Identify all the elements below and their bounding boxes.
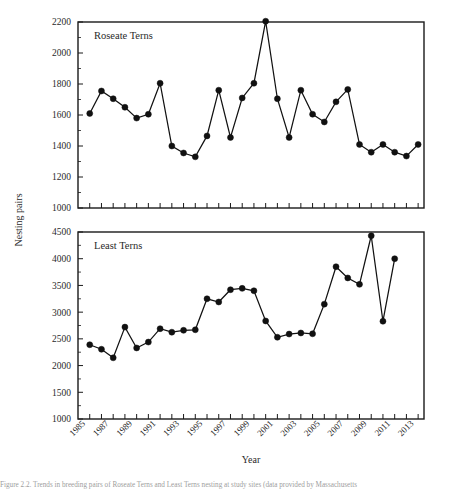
data-point-top-1988	[122, 104, 128, 110]
x-tick-label-2009: 2009	[349, 418, 369, 438]
caption-text: Figure 2.2. Trends in breeding pairs of …	[0, 481, 455, 490]
data-point-top-2005	[321, 119, 327, 125]
data-point-bottom-2000	[263, 318, 269, 324]
y-tick-label-top-1800: 1800	[52, 79, 71, 89]
y-tick-label-top-1200: 1200	[52, 172, 71, 182]
x-tick-label-1993: 1993	[161, 418, 181, 438]
data-point-top-1991	[157, 80, 163, 86]
data-point-top-2001	[274, 96, 280, 102]
x-tick-label-1997: 1997	[208, 418, 228, 438]
data-point-top-1989	[134, 115, 140, 121]
y-tick-label-top-2200: 2200	[52, 17, 71, 27]
data-point-bottom-1993	[181, 327, 187, 333]
y-tick-label-bottom-2000: 2000	[52, 361, 71, 371]
data-point-top-2000	[263, 18, 269, 24]
data-point-top-2011	[392, 149, 398, 155]
data-point-top-2008	[356, 141, 362, 147]
data-point-bottom-2011	[392, 256, 398, 262]
x-axis-labels: 1985198719891991199319951997199920012003…	[67, 418, 416, 438]
x-tick-label-2007: 2007	[325, 418, 345, 438]
data-point-top-1993	[181, 150, 187, 156]
y-tick-label-bottom-1000: 1000	[52, 414, 71, 424]
x-tick-label-2005: 2005	[302, 418, 322, 438]
x-axis-title: Year	[242, 454, 261, 465]
data-point-top-1986	[98, 88, 104, 94]
y-tick-label-bottom-2500: 2500	[52, 334, 71, 344]
data-point-top-1997	[227, 134, 233, 140]
data-point-top-1992	[169, 143, 175, 149]
data-point-top-2006	[333, 99, 339, 105]
figure-caption: Figure 2.2. Trends in breeding pairs of …	[0, 481, 455, 490]
series-line-bottom	[90, 236, 395, 358]
y-tick-label-bottom-1500: 1500	[52, 388, 71, 398]
data-point-top-2003	[298, 87, 304, 93]
x-tick-label-1995: 1995	[185, 418, 205, 438]
data-point-bottom-1985	[87, 342, 93, 348]
x-tick-label-2003: 2003	[278, 418, 298, 438]
y-tick-label-top-1000: 1000	[52, 203, 71, 213]
data-point-bottom-2001	[274, 334, 280, 340]
panel-title-top: Roseate Terns	[94, 30, 153, 41]
plot-frame-top	[78, 22, 424, 208]
data-point-bottom-1999	[251, 288, 257, 294]
x-tick-label-1999: 1999	[232, 418, 252, 438]
data-point-bottom-1986	[98, 346, 104, 352]
data-point-top-2009	[368, 149, 374, 155]
x-tick-label-2001: 2001	[255, 418, 275, 438]
y-axis-title: Nesting pairs	[13, 193, 24, 246]
data-point-bottom-2008	[356, 281, 362, 287]
y-tick-label-bottom-4000: 4000	[52, 254, 71, 264]
figure-container: 1000120014001600180020002200Roseate Tern…	[0, 0, 455, 490]
data-point-top-1998	[239, 95, 245, 101]
x-tick-label-1991: 1991	[138, 418, 158, 438]
data-point-top-2013	[415, 141, 421, 147]
data-point-top-1994	[192, 154, 198, 160]
data-point-top-2010	[380, 141, 386, 147]
data-point-bottom-1992	[169, 329, 175, 335]
y-tick-label-top-1600: 1600	[52, 110, 71, 120]
panel-bottom: 10001500200025003000350040004500Least Te…	[52, 227, 424, 424]
y-tick-label-bottom-3500: 3500	[52, 281, 71, 291]
data-point-bottom-1989	[134, 345, 140, 351]
data-point-bottom-2005	[321, 301, 327, 307]
data-point-top-1985	[87, 110, 93, 116]
data-point-bottom-1996	[216, 299, 222, 305]
data-point-top-2002	[286, 134, 292, 140]
data-point-bottom-2009	[368, 233, 374, 239]
data-point-bottom-2003	[298, 330, 304, 336]
data-point-bottom-1995	[204, 296, 210, 302]
data-point-bottom-1990	[145, 339, 151, 345]
terns-nesting-pairs-chart: 1000120014001600180020002200Roseate Tern…	[0, 0, 455, 490]
data-point-top-2012	[403, 153, 409, 159]
y-tick-label-top-2000: 2000	[52, 48, 71, 58]
y-tick-label-top-1400: 1400	[52, 141, 71, 151]
x-tick-label-2011: 2011	[373, 418, 393, 438]
data-point-bottom-1988	[122, 324, 128, 330]
series-line-top	[90, 21, 418, 157]
data-point-bottom-1991	[157, 326, 163, 332]
data-point-top-1987	[110, 96, 116, 102]
data-point-top-2004	[310, 111, 316, 117]
data-point-top-1990	[145, 111, 151, 117]
data-point-bottom-2007	[345, 275, 351, 281]
plot-frame-bottom	[78, 232, 424, 419]
data-point-bottom-2010	[380, 318, 386, 324]
y-tick-label-bottom-4500: 4500	[52, 227, 71, 237]
data-point-top-1999	[251, 80, 257, 86]
panel-top: 1000120014001600180020002200Roseate Tern…	[52, 17, 424, 213]
data-point-top-2007	[345, 86, 351, 92]
x-tick-label-1989: 1989	[114, 418, 134, 438]
y-tick-label-bottom-3000: 3000	[52, 308, 71, 318]
data-point-bottom-1987	[110, 355, 116, 361]
x-tick-label-2013: 2013	[396, 418, 416, 438]
data-point-bottom-2004	[310, 331, 316, 337]
data-point-bottom-2002	[286, 331, 292, 337]
data-point-bottom-1997	[227, 287, 233, 293]
data-point-top-1995	[204, 133, 210, 139]
x-tick-label-1987: 1987	[91, 418, 111, 438]
data-point-top-1996	[216, 87, 222, 93]
data-point-bottom-1994	[192, 327, 198, 333]
data-point-bottom-1998	[239, 285, 245, 291]
panel-title-bottom: Least Terns	[94, 240, 142, 251]
data-point-bottom-2006	[333, 264, 339, 270]
